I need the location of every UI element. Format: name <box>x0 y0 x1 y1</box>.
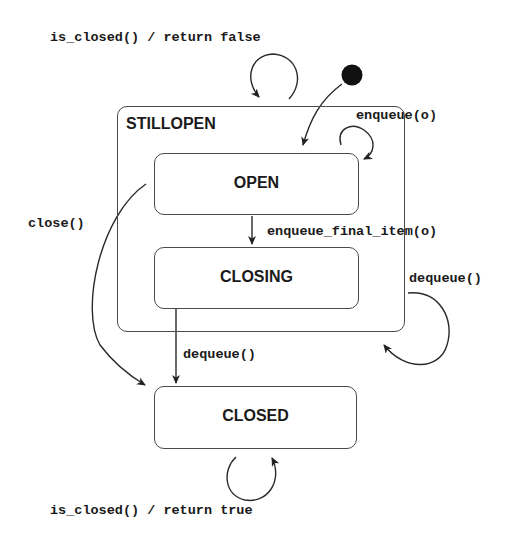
label-enqueue: enqueue(o) <box>356 108 437 123</box>
label-close: close() <box>28 216 85 231</box>
state-closing: CLOSING <box>154 247 359 309</box>
state-closing-label: CLOSING <box>155 268 358 286</box>
state-diagram: STILLOPEN OPEN CLOSING CLOSED is_closed(… <box>0 0 529 547</box>
composite-state-name: STILLOPEN <box>126 115 216 133</box>
initial-state-dot <box>342 65 363 86</box>
closed-self-loop-arrow <box>227 457 276 500</box>
label-is-closed-false: is_closed() / return false <box>50 30 261 45</box>
label-dequeue-closing: dequeue() <box>183 347 256 362</box>
state-closed-label: CLOSED <box>155 407 356 425</box>
label-dequeue-self: dequeue() <box>409 271 482 286</box>
state-closed: CLOSED <box>154 386 357 449</box>
state-open: OPEN <box>154 153 359 215</box>
state-open-label: OPEN <box>155 174 358 192</box>
label-enqueue-final-item: enqueue_final_item(o) <box>267 224 437 239</box>
label-is-closed-true: is_closed() / return true <box>50 503 253 518</box>
stillopen-self-loop-arrow <box>251 54 298 99</box>
